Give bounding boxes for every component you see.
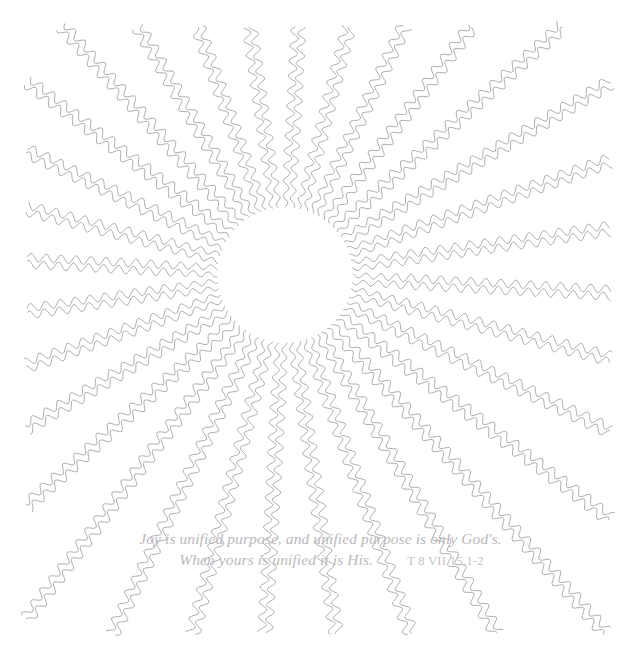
ray-strand	[327, 328, 604, 634]
ray-strand	[57, 31, 238, 226]
ray-strand	[106, 334, 251, 631]
ray-strand	[352, 288, 612, 356]
ray-strand	[298, 25, 347, 208]
ray-strand	[312, 26, 403, 214]
ray-strand	[332, 325, 611, 628]
ray-strand	[24, 86, 228, 237]
ray-strand	[28, 253, 218, 269]
ray-strand	[347, 303, 612, 430]
ray-strand	[133, 30, 250, 217]
ray-strand	[32, 321, 235, 511]
ray-strand	[31, 311, 228, 434]
ray-strand	[353, 273, 610, 292]
ray-strand	[340, 315, 614, 515]
ray-strand	[28, 287, 219, 318]
ray-strand	[24, 295, 220, 364]
ray-strand	[336, 320, 609, 520]
ray-strand	[31, 77, 234, 230]
ray-strand	[116, 338, 259, 635]
ray-strand	[351, 222, 609, 263]
ray-strand	[353, 229, 611, 270]
ray-strand	[26, 211, 217, 264]
ray-strand	[27, 280, 217, 311]
ray-strand	[26, 306, 225, 427]
sunburst-rays	[0, 0, 637, 660]
ray-strand-group	[22, 21, 615, 635]
ray-strand	[337, 27, 562, 231]
ray-strand	[290, 28, 305, 208]
ray-strand	[305, 27, 354, 211]
ray-strand	[324, 25, 470, 219]
ray-strand	[347, 155, 609, 249]
ray-strand	[258, 343, 280, 632]
ray-strand	[26, 316, 230, 504]
ray-strand	[350, 163, 612, 256]
ray-strand	[195, 342, 273, 634]
ray-strand	[322, 332, 503, 629]
ray-strand	[344, 308, 610, 434]
ray-strand	[297, 342, 343, 634]
ray-strand	[29, 202, 220, 255]
artwork-canvas: Joy is unified purpose, and unified purp…	[0, 0, 637, 660]
ray-strand	[266, 343, 287, 632]
ray-strand	[283, 27, 298, 207]
ray-strand	[312, 338, 415, 634]
ray-strand	[344, 87, 614, 242]
ray-strand	[341, 79, 610, 236]
